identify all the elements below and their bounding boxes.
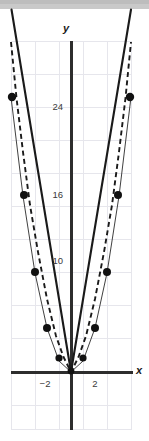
data-point [55,354,62,361]
data-point [20,191,28,199]
data-point [126,93,134,101]
data-point [68,368,75,375]
y-tick-label-16: 16 [33,189,63,200]
y-tick-label-24: 24 [33,101,63,112]
data-point [103,268,111,276]
x-tick-label-2: 2 [85,378,105,389]
x-axis-label: x [136,364,142,376]
graph-canvas [0,0,149,441]
data-point [91,324,99,332]
y-axis-label: y [63,22,69,34]
data-point [31,268,39,276]
data-point [114,191,122,199]
graph-figure: y x 24 16 10 −2 2 [0,0,149,441]
y-tick-label-10: 10 [33,255,63,266]
data-point [43,324,51,332]
data-point [79,354,86,361]
x-tick-label-minus2: −2 [35,378,55,389]
data-point [8,93,16,101]
